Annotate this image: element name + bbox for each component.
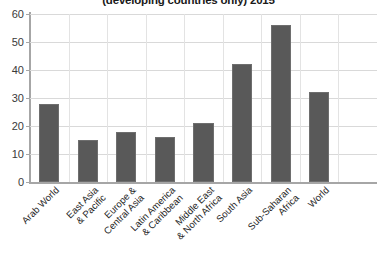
x-tick-label-line: South Asia bbox=[215, 185, 255, 225]
x-tick-label-south-asia: South Asia bbox=[215, 185, 255, 225]
y-tick-mark-40 bbox=[26, 70, 30, 71]
gridline-x-7 bbox=[300, 14, 301, 182]
y-tick-mark-60 bbox=[26, 14, 30, 15]
x-tick-label-world: World bbox=[307, 185, 332, 210]
x-axis-line bbox=[30, 182, 377, 184]
y-tick-mark-30 bbox=[26, 98, 30, 99]
bar-arab-world bbox=[39, 104, 59, 182]
y-tick-label-0: 0 bbox=[0, 176, 24, 188]
gridline-x-3 bbox=[146, 14, 147, 182]
bar-world bbox=[309, 92, 329, 182]
gridline-x-8 bbox=[338, 14, 339, 182]
chart-screenshot: (developing countries only) 2015 0102030… bbox=[0, 0, 377, 259]
gridline-x-4 bbox=[184, 14, 185, 182]
y-tick-mark-20 bbox=[26, 126, 30, 127]
bar-europe-central-asia bbox=[116, 132, 136, 182]
gridline-y-40 bbox=[30, 70, 377, 71]
y-tick-mark-0 bbox=[26, 182, 30, 183]
bar-south-asia bbox=[232, 64, 252, 182]
y-tick-mark-50 bbox=[26, 42, 30, 43]
x-tick-label-line: Arab World bbox=[20, 185, 61, 226]
x-tick-label-line: World bbox=[307, 185, 332, 210]
y-tick-label-10: 10 bbox=[0, 148, 24, 160]
bar-latin-america-caribbean bbox=[155, 137, 175, 182]
y-tick-label-30: 30 bbox=[0, 92, 24, 104]
y-tick-mark-10 bbox=[26, 154, 30, 155]
x-tick-label-arab-world: Arab World bbox=[20, 185, 61, 226]
chart-title: (developing countries only) 2015 bbox=[0, 0, 377, 6]
gridline-x-6 bbox=[261, 14, 262, 182]
bar-east-asia-pacific bbox=[78, 140, 98, 182]
y-tick-label-40: 40 bbox=[0, 64, 24, 76]
gridline-x-2 bbox=[107, 14, 108, 182]
gridline-x-5 bbox=[223, 14, 224, 182]
y-tick-label-50: 50 bbox=[0, 36, 24, 48]
gridline-x-1 bbox=[69, 14, 70, 182]
y-tick-label-20: 20 bbox=[0, 120, 24, 132]
plot-area bbox=[30, 14, 377, 182]
bar-sub-saharan-africa bbox=[271, 25, 291, 182]
y-tick-label-60: 60 bbox=[0, 8, 24, 20]
x-tick-label-sub-saharan-africa: Sub-SaharanAfrica bbox=[246, 185, 301, 240]
gridline-y-50 bbox=[30, 42, 377, 43]
gridline-y-60 bbox=[30, 14, 377, 15]
bar-middle-east-north-africa bbox=[193, 123, 213, 182]
